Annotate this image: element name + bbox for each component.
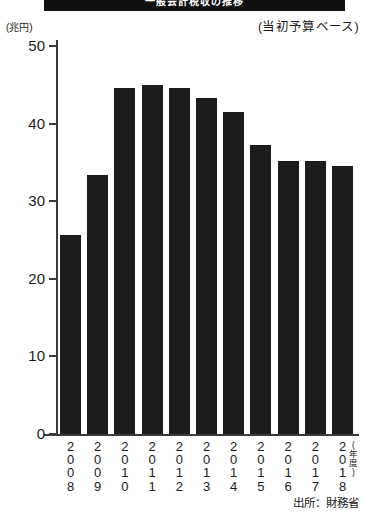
y-axis-tick (49, 355, 58, 357)
x-axis-category-label: 2016 (277, 440, 299, 493)
x-axis-category-label: 2017 (304, 440, 326, 493)
bar (169, 88, 190, 434)
x-axis-line (44, 434, 359, 436)
x-axis-category-label: 2008 (60, 440, 82, 493)
x-axis-category-label: 2010 (114, 440, 136, 493)
bar (114, 88, 135, 434)
bar-chart-plot: 01020304050 2008200920102011201220132014… (0, 0, 365, 514)
y-axis-tick (49, 278, 58, 280)
bar (60, 235, 81, 434)
source-note: 出所：財務省 (293, 496, 359, 510)
y-axis-tick-label: 10 (0, 348, 45, 363)
x-axis-category-label: 2014 (223, 440, 245, 493)
x-axis-category-label: 2015 (250, 440, 272, 493)
x-axis-category-label: 2013 (196, 440, 218, 493)
y-axis-tick-label: 0 (0, 426, 45, 441)
x-axis-category-label: 2009 (87, 440, 109, 493)
y-axis-tick-label: 40 (0, 116, 45, 131)
bar (223, 112, 244, 434)
bar (196, 98, 217, 434)
y-axis-tick (49, 200, 58, 202)
x-axis-category-label: 2011 (141, 440, 163, 493)
x-axis-category-label: 2012 (168, 440, 190, 493)
bar (305, 161, 326, 434)
bar (87, 175, 108, 434)
bar (142, 85, 163, 434)
y-axis-tick (49, 123, 58, 125)
bar (250, 145, 271, 434)
bar (332, 166, 353, 434)
y-axis-tick (49, 433, 58, 435)
y-axis-tick-label: 20 (0, 271, 45, 286)
y-axis-tick-label: 30 (0, 193, 45, 208)
y-axis-line (56, 40, 58, 436)
y-axis-tick (49, 45, 58, 47)
bar (278, 161, 299, 434)
y-axis-tick-label: 50 (0, 38, 45, 53)
x-axis-unit-label: (年度) (348, 441, 359, 477)
